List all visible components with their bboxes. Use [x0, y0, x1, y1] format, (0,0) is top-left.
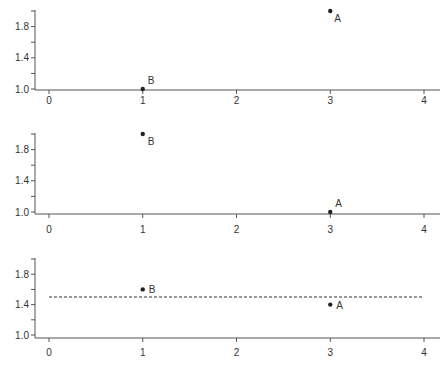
x-tick-label: 0 [46, 224, 52, 235]
chart-panel-2: 1.01.41.801234BA [15, 132, 440, 235]
x-tick-label: 1 [140, 347, 146, 358]
y-tick-label: 1.4 [15, 299, 29, 310]
x-tick-label: 4 [421, 95, 427, 106]
x-tick-label: 1 [140, 95, 146, 106]
three-panel-scatter-figure: 1.01.41.801234BA1.01.41.801234BA1.01.41.… [0, 0, 448, 369]
y-tick-label: 1.8 [15, 269, 29, 280]
data-point-b [141, 87, 145, 91]
x-tick-label: 2 [234, 224, 240, 235]
x-tick-label: 0 [46, 347, 52, 358]
y-tick-label: 1.0 [15, 330, 29, 341]
point-label-a: A [335, 198, 342, 209]
point-label-b: B [148, 136, 155, 147]
y-tick-label: 1.8 [15, 21, 29, 32]
x-tick-label: 3 [327, 224, 333, 235]
x-tick-label: 0 [46, 95, 52, 106]
x-tick-label: 3 [327, 347, 333, 358]
y-tick-label: 1.0 [15, 84, 29, 95]
x-tick-label: 4 [421, 347, 427, 358]
x-tick-label: 3 [327, 95, 333, 106]
y-tick-label: 1.0 [15, 207, 29, 218]
x-tick-label: 4 [421, 224, 427, 235]
x-tick-label: 1 [140, 224, 146, 235]
y-tick-label: 1.4 [15, 52, 29, 63]
data-point-a [328, 302, 332, 306]
point-label-a: A [334, 13, 341, 24]
point-label-b: B [148, 75, 155, 86]
data-point-b [141, 132, 145, 136]
chart-panel-3: 1.01.41.801234BA [15, 258, 440, 358]
data-point-a [328, 210, 332, 214]
point-label-a: A [336, 300, 343, 311]
chart-panel-1: 1.01.41.801234BA [15, 9, 440, 106]
data-point-b [141, 287, 145, 291]
data-point-a [328, 9, 332, 13]
y-tick-label: 1.8 [15, 144, 29, 155]
x-tick-label: 2 [234, 347, 240, 358]
chart-figure: 1.01.41.801234BA1.01.41.801234BA1.01.41.… [0, 0, 448, 369]
point-label-b: B [149, 284, 156, 295]
y-tick-label: 1.4 [15, 175, 29, 186]
x-tick-label: 2 [234, 95, 240, 106]
